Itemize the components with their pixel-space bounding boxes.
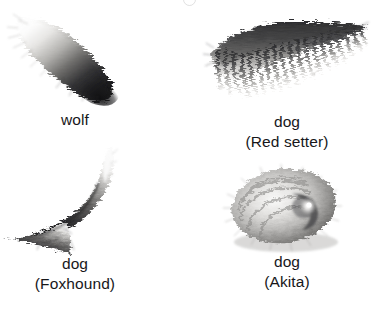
caption-wolf: wolf (0, 110, 150, 130)
cropped-glyph-artifact (183, 0, 196, 6)
caption-foxhound: dog (Foxhound) (0, 254, 150, 293)
caption-akita-breed: (Akita) (200, 272, 374, 292)
caption-akita-primary: dog (274, 253, 300, 270)
figure-plate: wolf (0, 0, 374, 316)
caption-red-setter-breed: (Red setter) (200, 132, 374, 152)
caption-foxhound-breed: (Foxhound) (0, 274, 150, 294)
red-setter-tail-illustration (200, 8, 374, 113)
caption-red-setter-primary: dog (274, 113, 300, 130)
caption-foxhound-primary: dog (62, 255, 88, 272)
foxhound-tail-illustration (0, 140, 150, 260)
akita-tail-illustration (200, 160, 374, 260)
wolf-tail-illustration (0, 4, 150, 114)
caption-wolf-primary: wolf (61, 111, 89, 128)
caption-red-setter: dog (Red setter) (200, 112, 374, 151)
caption-akita: dog (Akita) (200, 252, 374, 291)
